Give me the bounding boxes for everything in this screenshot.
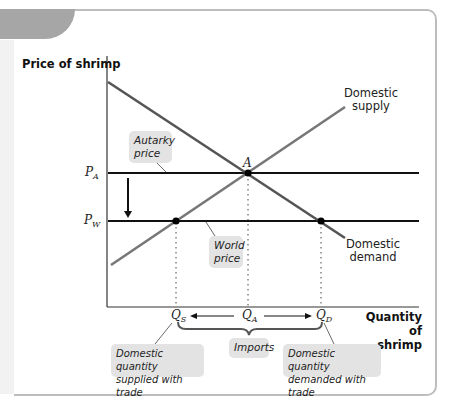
- x-axis-label-line1: Quantity of: [360, 310, 422, 338]
- qs-note-line1: Domestic quantity: [116, 347, 199, 373]
- qa-sub: A: [252, 315, 258, 324]
- pw-main: P: [84, 213, 92, 227]
- qa-main: Q: [242, 308, 252, 322]
- point-qs: [172, 217, 179, 224]
- qd-note-line2: demanded with trade: [288, 373, 376, 399]
- world-price-callout: World price: [209, 236, 243, 268]
- pa-label: PA: [85, 165, 99, 184]
- arrow-left-head-icon: [190, 313, 197, 319]
- qa-label: QA: [242, 308, 258, 327]
- qd-note-callout: Domestic quantity demanded with trade: [283, 344, 381, 377]
- qd-note-line1: Domestic quantity: [288, 347, 376, 373]
- point-a-label: A: [243, 156, 252, 170]
- qd-main: Q: [316, 308, 326, 322]
- autarky-line2: price: [134, 147, 167, 160]
- autarky-line1: Autarky: [134, 134, 167, 147]
- y-axis-label: Price of shrimp: [22, 57, 120, 71]
- pa-main: P: [85, 165, 93, 179]
- pw-label: PW: [84, 213, 100, 232]
- qs-leader: [155, 323, 172, 344]
- supply-label: Domestic supply: [340, 87, 402, 113]
- world-line2: price: [214, 252, 238, 265]
- point-a: [244, 169, 251, 176]
- qd-sub: D: [326, 315, 332, 324]
- demand-label-line2: demand: [342, 251, 404, 264]
- point-qd: [317, 217, 324, 224]
- qs-main: Q: [171, 308, 181, 322]
- world-line1: World: [214, 239, 238, 252]
- autarky-price-callout: Autarky price: [129, 131, 172, 163]
- qs-note-callout: Domestic quantity supplied with trade: [111, 344, 204, 377]
- demand-label: Domestic demand: [342, 238, 404, 264]
- qs-sub: S: [181, 315, 186, 324]
- arrow-right-head-icon: [305, 313, 312, 319]
- pw-sub: W: [92, 220, 100, 229]
- qd-label: QD: [316, 308, 332, 327]
- arrow-head-icon: [124, 211, 132, 218]
- world-leader: [206, 222, 215, 236]
- qs-label: QS: [171, 308, 186, 327]
- pa-sub: A: [93, 172, 99, 181]
- supply-label-line2: supply: [340, 100, 402, 113]
- imports-callout: Imports: [229, 338, 269, 358]
- qs-note-line2: supplied with trade: [116, 373, 199, 399]
